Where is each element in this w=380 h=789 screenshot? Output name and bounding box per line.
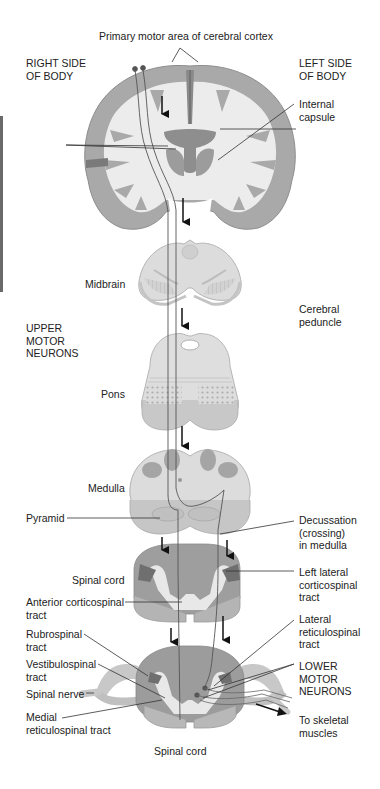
upper-spinal-cord-section xyxy=(134,544,240,622)
label-spinal-cord-upper: Spinal cord xyxy=(72,574,125,587)
label-pons: Pons xyxy=(101,388,125,401)
label-upper-motor-neurons: UPPER MOTOR NEURONS xyxy=(26,322,79,360)
label-cerebral-peduncle: Cerebral peduncle xyxy=(299,303,342,328)
label-midbrain: Midbrain xyxy=(85,278,125,291)
label-anterior-corticospinal-tract: Anterior corticospinal tract xyxy=(26,596,124,621)
label-rubrospinal-tract: Rubrospinal tract xyxy=(26,628,82,653)
label-to-skeletal-muscles: To skeletal muscles xyxy=(299,714,349,739)
lower-spinal-cord-section xyxy=(82,646,292,728)
label-vestibulospinal-tract: Vestibulospinal tract xyxy=(26,658,96,683)
label-primary-motor-area: Primary motor area of cerebral cortex xyxy=(99,30,273,43)
label-medial-reticulospinal-tract: Medial reticulospinal tract xyxy=(26,711,111,736)
label-decussation: Decussation (crossing) in medulla xyxy=(299,514,357,552)
label-internal-capsule: Internal capsule xyxy=(299,98,335,123)
label-spinal-nerve: Spinal nerve xyxy=(26,688,84,701)
midbrain-section xyxy=(139,240,241,304)
medulla-section xyxy=(130,449,250,534)
label-spinal-cord-lower: Spinal cord xyxy=(154,745,207,758)
label-right-side-of-body: RIGHT SIDE OF BODY xyxy=(26,57,86,82)
label-left-side-of-body: LEFT SIDE OF BODY xyxy=(299,57,352,82)
label-left-lateral-corticospinal-tract: Left lateral corticospinal tract xyxy=(299,566,357,604)
label-lower-motor-neurons: LOWER MOTOR NEURONS xyxy=(299,660,352,698)
label-lateral-reticulospinal-tract: Lateral reticulospinal tract xyxy=(299,613,360,651)
label-medulla: Medulla xyxy=(88,482,125,495)
brain-coronal-section xyxy=(85,65,296,229)
label-pyramid: Pyramid xyxy=(26,512,65,525)
pons-section xyxy=(142,333,239,430)
